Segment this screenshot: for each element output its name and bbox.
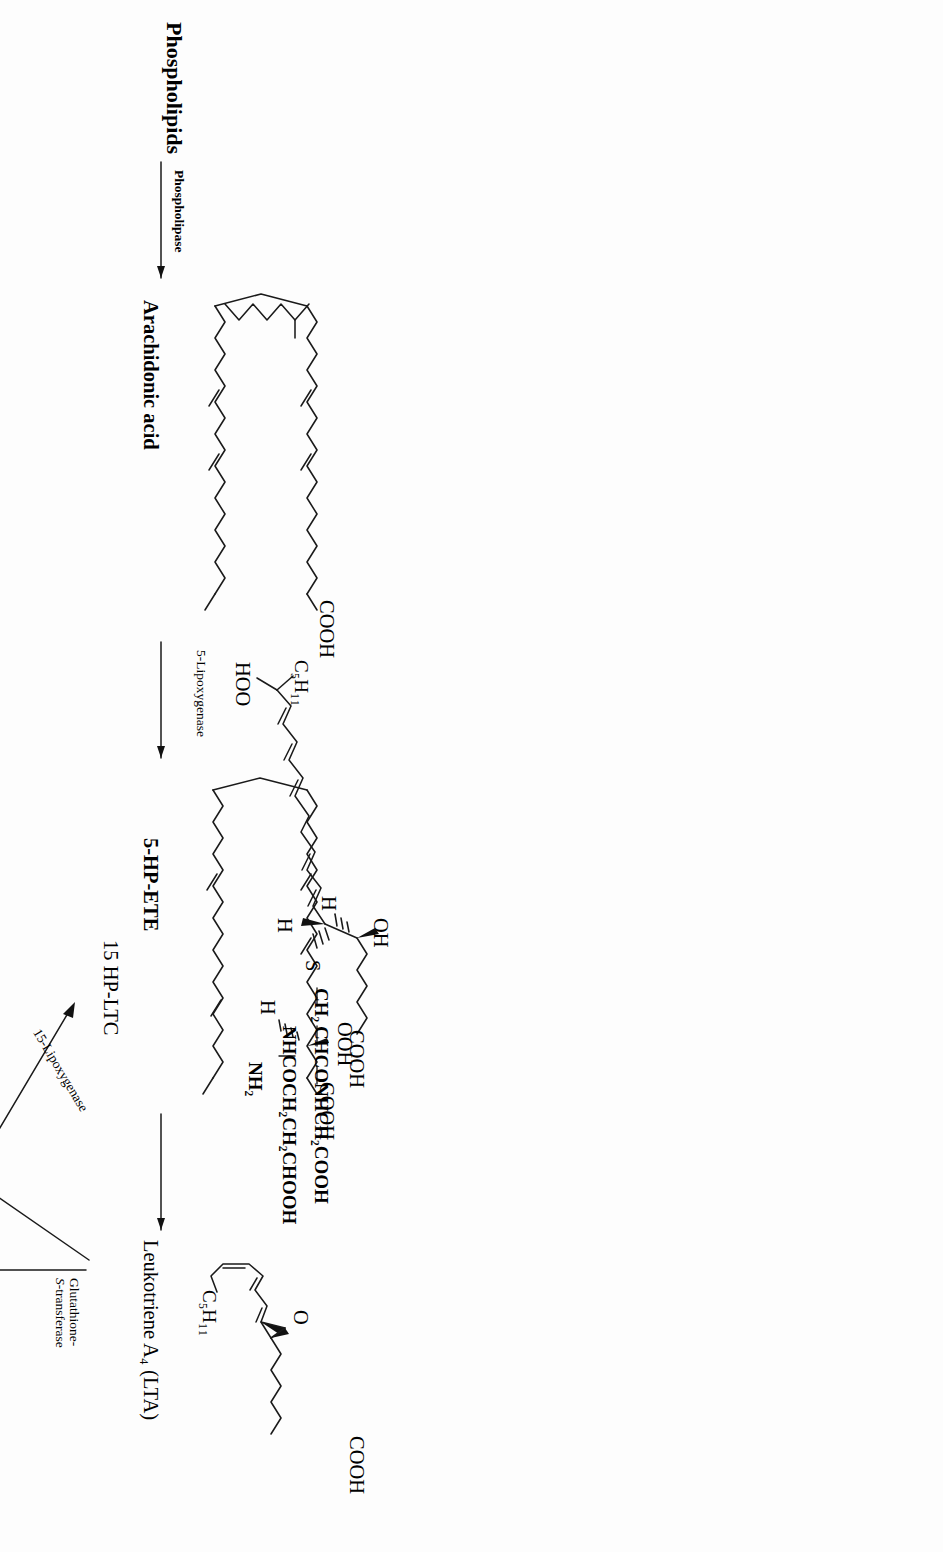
structure-arachidonic-acid	[178, 286, 343, 626]
group-hoo-hp-ltc: HOO	[231, 662, 253, 706]
rotated-page-wrapper: Phospholipids Phospholipase COOH Arachid…	[0, 0, 943, 1552]
label-15-hp-ltc: 15 HP-LTC	[99, 940, 121, 1036]
enzyme-phospholipase: Phospholipase	[172, 170, 186, 253]
group-c5h11-hp-ltc: C₅H₁₁	[291, 660, 311, 706]
label-5-hp-ete: 5-HP-ETE	[139, 838, 161, 931]
group-oh-hp-ltc: OH	[369, 918, 391, 948]
label-arachidonic-acid: Arachidonic acid	[139, 300, 161, 450]
group-h-lower-hp-ltc: H	[273, 918, 295, 933]
group-glutathione-mid-hp-ltc: CHCONHCH₂COOH	[311, 1026, 331, 1204]
group-cooh-hp-ltc: COOH	[345, 1030, 367, 1088]
group-h-upper-hp-ltc: H	[317, 896, 339, 911]
arrow-hpete-to-lta	[143, 1112, 183, 1242]
group-nh2-hp-ltc: NH₂	[245, 1062, 265, 1096]
arrow-arachidonic-to-hpete	[143, 640, 183, 770]
group-glutathione-low-hp-ltc: NHCOCH₂CH₂CHOOH	[279, 1026, 299, 1224]
structure-leukotriene-c4	[28, 1232, 358, 1462]
pathway-diagram-canvas: Phospholipids Phospholipase COOH Arachid…	[0, 0, 943, 1552]
node-phospholipids: Phospholipids	[163, 22, 186, 154]
group-ch2-hp-ltc: CH₂	[311, 988, 331, 1022]
group-s-hp-ltc: S	[301, 960, 323, 971]
